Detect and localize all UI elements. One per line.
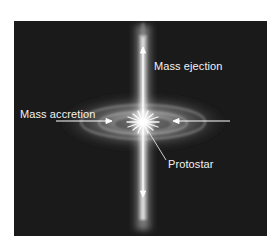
mass-accretion-label: Mass accretion — [20, 108, 95, 120]
protostar-label: Protostar — [168, 158, 214, 170]
protostar-illustration — [14, 21, 267, 236]
diagram-panel: Mass ejection Mass accretion Protostar — [14, 21, 267, 236]
mass-ejection-label: Mass ejection — [154, 60, 223, 72]
